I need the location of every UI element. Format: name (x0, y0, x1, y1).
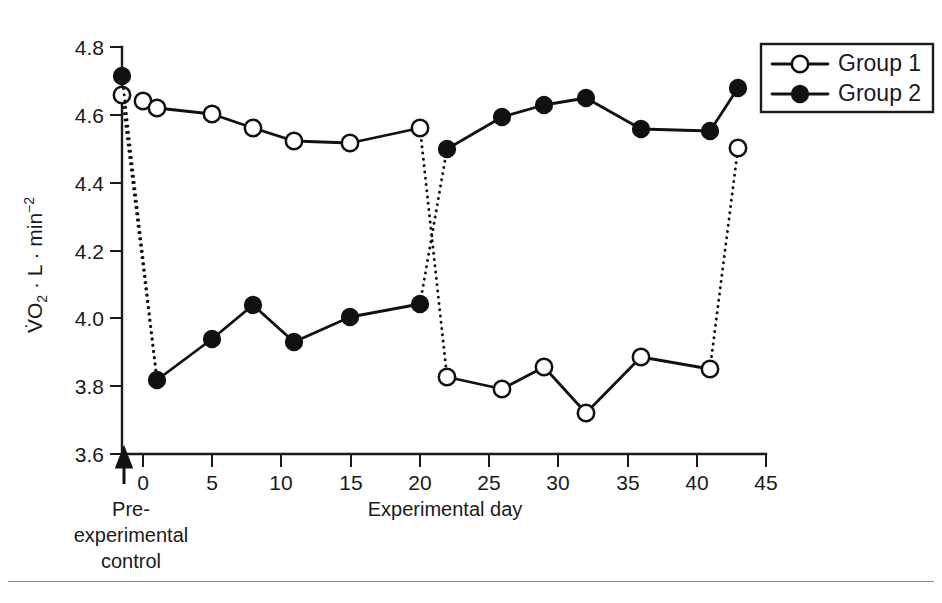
group2-point-day26 (494, 109, 510, 125)
group2-point-day20 (412, 296, 428, 312)
legend-marker-filled-circle-icon (792, 86, 808, 102)
group1-point-day8 (245, 120, 261, 136)
y-tick-label-4.8: 4.8 (75, 36, 104, 59)
x-axis-title: Experimental day (368, 498, 523, 520)
y-axis-title-exp: −2 (21, 197, 37, 213)
x-tick-label-5: 5 (206, 471, 218, 494)
y-axis-title: V̇O2 · L · min−2 (21, 197, 50, 333)
group1-point-day36 (633, 349, 649, 365)
y-tick-label-4.6: 4.6 (75, 104, 104, 127)
x-tick-label-0: 0 (137, 471, 149, 494)
group2-point-day15 (342, 309, 358, 325)
group1-point-day26 (494, 381, 510, 397)
group2-point-day43 (730, 80, 746, 96)
y-tick-label-3.6: 3.6 (75, 443, 104, 466)
group2-point-day32 (578, 90, 594, 106)
svg-text:V̇O2 · L · min−2: V̇O2 · L · min−2 (21, 197, 50, 333)
footer-divider (8, 581, 934, 582)
group1-solid-run-2 (447, 357, 710, 413)
group2-point-day22 (439, 141, 455, 157)
x-tick-label-45: 45 (754, 471, 777, 494)
group1-dotted-day41-to-day43 (710, 148, 738, 369)
legend-label-group-2: Group 2 (838, 80, 921, 106)
group1-point-day15 (342, 135, 358, 151)
group1-point-day29 (536, 359, 552, 375)
figure-root: 4.8 4.6 4.4 4.2 4.0 3.8 3.6 0 5 10 15 20 (0, 0, 942, 603)
group1-dotted-day20-to-day22 (420, 128, 447, 377)
pre-control-caption-line2: experimental (74, 524, 189, 546)
group1-point-day22 (439, 369, 455, 385)
vo2-line-chart: 4.8 4.6 4.4 4.2 4.0 3.8 3.6 0 5 10 15 20 (0, 0, 942, 603)
pre-control-caption-line1: Pre- (112, 498, 150, 520)
group2-point-day8 (245, 297, 261, 313)
group1-point-day41 (702, 361, 718, 377)
group1-point-day11 (286, 133, 302, 149)
group1-solid-run-1 (143, 101, 420, 143)
y-tick-label-4.4: 4.4 (75, 172, 105, 195)
y-axis-title-mid: · L · min (23, 213, 46, 295)
legend-label-group-1: Group 1 (838, 50, 921, 76)
pre-experimental-control-annotation: Pre- experimental control (74, 449, 189, 572)
group2-point-day36 (633, 121, 649, 137)
x-tick-label-30: 30 (546, 471, 569, 494)
pre-control-arrow-head (117, 449, 131, 467)
y-tick-label-4.0: 4.0 (75, 307, 104, 330)
y-tick-label-3.8: 3.8 (75, 375, 104, 398)
x-tick-label-10: 10 (269, 471, 292, 494)
x-ticks-group: 0 5 10 15 20 25 30 35 40 45 (137, 454, 778, 494)
group2-dotted-pre-to-day1 (122, 76, 157, 380)
group2-point-day41 (702, 123, 718, 139)
y-tick-label-4.2: 4.2 (75, 240, 104, 263)
group1-dotted-pre-to-day1 (122, 95, 157, 380)
legend: Group 1 Group 2 (761, 44, 933, 112)
x-tick-label-15: 15 (339, 471, 362, 494)
legend-marker-open-circle-icon (792, 56, 808, 72)
group2-point-day5 (204, 331, 220, 347)
group2-point-pre (114, 68, 130, 84)
group1-point-day5 (204, 106, 220, 122)
group2-point-day11 (286, 334, 302, 350)
x-tick-label-35: 35 (616, 471, 639, 494)
group1-point-day1 (149, 100, 165, 116)
y-axis-title-vdot: V̇ (23, 319, 46, 333)
y-axis-title-o: O (23, 303, 46, 319)
group1-point-pre (114, 87, 130, 103)
group2-point-day1 (149, 372, 165, 388)
group1-point-day32 (578, 405, 594, 421)
y-axis-title-sub2: 2 (34, 295, 50, 303)
pre-control-caption-line3: control (101, 550, 161, 572)
x-tick-label-40: 40 (685, 471, 708, 494)
x-tick-label-20: 20 (408, 471, 431, 494)
group2-point-day29 (536, 97, 552, 113)
x-tick-label-25: 25 (477, 471, 500, 494)
group1-point-day20 (412, 120, 428, 136)
group1-point-day43 (730, 140, 746, 156)
